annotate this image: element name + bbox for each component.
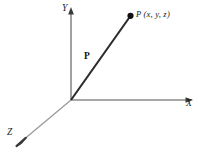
coordinate-system-figure: Y X Z P (x, y, z) P — [0, 0, 204, 153]
z-axis — [17, 100, 72, 146]
z-axis-line — [22, 100, 71, 141]
y-axis-arrowhead — [68, 7, 74, 15]
vector-label: P — [84, 52, 90, 62]
point-coordinates-label: P (x, y, z) — [136, 10, 170, 19]
position-vector — [71, 13, 134, 100]
figure-canvas — [0, 0, 204, 153]
z-axis-arrowhead — [17, 138, 26, 146]
y-axis — [68, 7, 74, 100]
y-axis-label: Y — [62, 4, 67, 14]
x-axis — [71, 97, 193, 103]
z-axis-label: Z — [7, 128, 12, 138]
x-axis-label: X — [186, 99, 192, 109]
point-marker-dot — [127, 13, 133, 19]
position-vector-line — [71, 18, 129, 100]
